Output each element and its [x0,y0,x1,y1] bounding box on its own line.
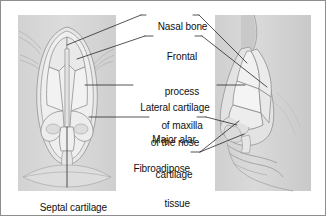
nostril-left [46,124,60,134]
label-frontal-line1: Frontal [149,51,215,63]
lateral-columella [241,135,251,153]
label-septal-cartilage: Septal cartilage [23,190,113,216]
label-fibroadipose-line2: tissue [125,198,190,210]
label-fibroadipose-tissue: Fibroadipose tissue [125,140,190,216]
nostril-right [74,124,88,134]
label-fibroadipose-line1: Fibroadipose [125,163,190,175]
anatomy-figure: Nasal bone Frontal process of maxilla La… [0,0,326,216]
lateral-view-group [215,15,311,191]
